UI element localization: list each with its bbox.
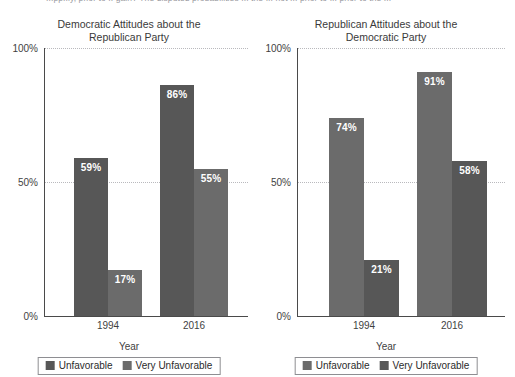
bar-value-label: 74% [329,122,364,133]
legend-label-very-unfavorable: Very Unfavorable [393,360,470,371]
legend-label-very-unfavorable: Very Unfavorable [136,360,213,371]
legend-item-unfavorable[interactable]: Unfavorable [303,360,370,371]
bar-2016-unfavorable[interactable]: 91% [417,72,452,316]
legend-item-unfavorable[interactable]: Unfavorable [46,360,113,371]
y-tick-100: 100% [12,43,38,54]
chart-panel-democratic: Democratic Attitudes about the Republica… [0,11,258,377]
legend-swatch-very-unfavorable [123,361,132,370]
legend-swatch-very-unfavorable [380,361,389,370]
bar-value-label: 59% [74,162,108,173]
bar-1994-very-unfavorable[interactable]: 21% [364,260,399,316]
y-tick-50: 50% [18,177,38,188]
x-tick-1994: 1994 [97,320,119,331]
x-tick-1994: 1994 [353,320,375,331]
bar-2016-very-unfavorable[interactable]: 55% [194,169,228,316]
bar-1994-very-unfavorable[interactable]: 17% [108,270,142,316]
bar-2016-unfavorable[interactable]: 86% [160,85,194,316]
bar-1994-unfavorable[interactable]: 74% [329,118,364,316]
bar-value-label: 21% [364,264,399,275]
y-axis [297,48,298,316]
bar-value-label: 86% [160,89,194,100]
chart-panel-republican: Republican Attitudes about the Democrati… [257,11,515,377]
legend-label-unfavorable: Unfavorable [316,360,370,371]
clipped-top-text: ...pp..ly, prior to .. gain? The dispute… [46,0,391,3]
bar-value-label: 91% [417,76,452,87]
y-tick-100: 100% [265,43,291,54]
legend-democratic: Unfavorable Very Unfavorable [38,357,221,375]
legend-republican: Unfavorable Very Unfavorable [295,357,478,375]
x-axis [44,316,248,317]
chart-title-line2: Republican Party [0,31,258,44]
legend-swatch-unfavorable [303,361,312,370]
x-axis-label: Year [257,341,515,352]
bar-value-label: 17% [108,274,142,285]
x-tick-2016: 2016 [441,320,463,331]
y-tick-0: 0% [24,311,38,322]
clipped-top-text-strip: ...pp..ly, prior to .. gain? The dispute… [0,0,515,11]
plot-area-republican: 100% 50% 0% 74% 21% 91% 58% 1994 2016 [297,48,505,316]
y-tick-0: 0% [277,311,291,322]
chart-title-line2: Democratic Party [257,31,515,44]
legend-item-very-unfavorable[interactable]: Very Unfavorable [123,360,213,371]
y-axis [44,48,45,316]
gridline-100 [297,48,505,49]
chart-title-line1: Democratic Attitudes about the [58,18,201,30]
legend-label-unfavorable: Unfavorable [59,360,113,371]
bar-2016-very-unfavorable[interactable]: 58% [452,161,487,316]
plot-area-democratic: 100% 50% 0% 59% 17% 86% 55% 1994 2016 [44,48,248,316]
gridline-100 [44,48,248,49]
chart-title-line1: Republican Attitudes about the [315,18,457,30]
chart-title-democratic: Democratic Attitudes about the Republica… [0,18,258,43]
figure-root: ...pp..ly, prior to .. gain? The dispute… [0,0,515,377]
bar-1994-unfavorable[interactable]: 59% [74,158,108,316]
x-axis-label: Year [0,341,258,352]
bar-value-label: 58% [452,165,487,176]
x-tick-2016: 2016 [183,320,205,331]
legend-item-very-unfavorable[interactable]: Very Unfavorable [380,360,470,371]
chart-title-republican: Republican Attitudes about the Democrati… [257,18,515,43]
legend-swatch-unfavorable [46,361,55,370]
bar-value-label: 55% [194,173,228,184]
y-tick-50: 50% [271,177,291,188]
x-axis [297,316,505,317]
